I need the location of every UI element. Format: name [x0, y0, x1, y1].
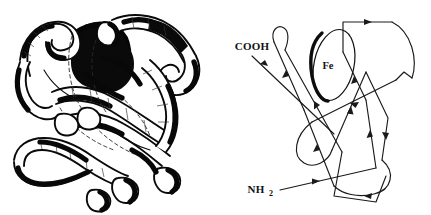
arrowhead-bottom-right-loop	[364, 193, 372, 199]
arrowhead-upper-left-ascend	[282, 70, 289, 78]
schematic-chain-trace-panel: Fe	[216, 0, 431, 215]
n-terminus-label: NH 2	[248, 183, 273, 198]
myoglobin-structure-figure: Fe	[0, 0, 431, 215]
n-terminus-label-subscript: 2	[269, 189, 273, 198]
heme-ellipse	[307, 26, 361, 105]
three-dimensional-model-panel	[0, 0, 216, 215]
trace-right-notch	[396, 72, 412, 80]
trace-bottom-left-u	[296, 122, 332, 165]
n-terminus-label-base: NH	[248, 183, 265, 195]
arrowhead-middle-ascend	[313, 144, 320, 152]
trace-bottom-right-loop	[334, 160, 390, 196]
tube-segment-lower-left	[14, 138, 128, 188]
c-terminus-label: COOH	[235, 40, 270, 52]
heme-group: Fe	[307, 26, 361, 105]
trace-right-sweep	[392, 22, 414, 78]
trace-top-hairpin	[273, 27, 288, 50]
trace-bottom-bracket	[334, 152, 386, 202]
schematic-chain-trace-drawing: Fe	[216, 0, 431, 215]
arrowhead-right-ascend-1	[367, 130, 374, 138]
backbone-trace	[252, 19, 414, 202]
terminus-labels: COOH NH 2	[235, 40, 273, 198]
arrowhead-n-lead	[312, 179, 320, 185]
three-dimensional-model-drawing	[0, 0, 216, 215]
arrowhead-right-lobe	[382, 132, 389, 140]
arrowhead-top-bracket	[364, 19, 372, 25]
tube-segment-upper-left	[20, 22, 80, 78]
heme-iron-label: Fe	[322, 60, 333, 71]
tube-segment-left-descending	[17, 62, 58, 119]
